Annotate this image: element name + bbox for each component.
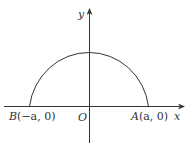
point-a-coords: (a, 0) [139, 110, 168, 123]
point-b-coords: (−a, 0) [17, 110, 55, 123]
x-axis-label: x [174, 110, 181, 123]
origin-label: O [78, 111, 87, 124]
y-axis-label: y [77, 8, 85, 21]
point-b-name: B [8, 110, 17, 123]
point-b-label: B(−a, 0) [8, 110, 55, 123]
diagram-canvas: y x O B(−a, 0) A(a, 0) [0, 0, 190, 153]
point-a-label: A(a, 0) [130, 110, 168, 123]
point-a-name: A [130, 110, 139, 123]
